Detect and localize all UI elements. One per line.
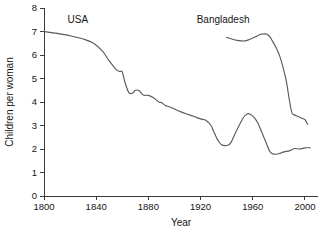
- y-tick-label: 3: [32, 120, 37, 131]
- y-tick-label: 2: [32, 143, 37, 154]
- y-tick-label: 4: [32, 96, 37, 107]
- y-tick-label: 1: [32, 167, 37, 178]
- y-tick-label: 7: [32, 26, 37, 37]
- x-axis-ticks: 180018401880192019602000: [33, 196, 315, 212]
- y-tick-label: 5: [32, 73, 37, 84]
- x-tick-label: 2000: [294, 201, 315, 212]
- chart-container: 012345678 180018401880192019602000 USABa…: [0, 0, 330, 232]
- x-tick-label: 1880: [138, 201, 159, 212]
- series-label-bangladesh: Bangladesh: [197, 14, 250, 25]
- x-tick-label: 1800: [33, 201, 54, 212]
- series-label-usa: USA: [67, 14, 88, 25]
- series-line-usa: [44, 32, 310, 155]
- series-line-bangladesh: [227, 34, 308, 124]
- x-axis-title: Year: [171, 217, 192, 228]
- y-tick-label: 0: [32, 190, 37, 201]
- y-tick-label: 6: [32, 49, 37, 60]
- y-axis-ticks: 012345678: [32, 2, 44, 201]
- y-tick-label: 8: [32, 2, 37, 13]
- x-tick-label: 1960: [242, 201, 263, 212]
- line-chart: 012345678 180018401880192019602000 USABa…: [0, 0, 330, 232]
- series-lines: [44, 32, 310, 155]
- x-tick-label: 1840: [86, 201, 107, 212]
- series-inline-labels: USABangladesh: [67, 14, 249, 25]
- x-tick-label: 1920: [190, 201, 211, 212]
- y-axis-title: Children per woman: [4, 57, 15, 147]
- axes-group: [44, 8, 318, 196]
